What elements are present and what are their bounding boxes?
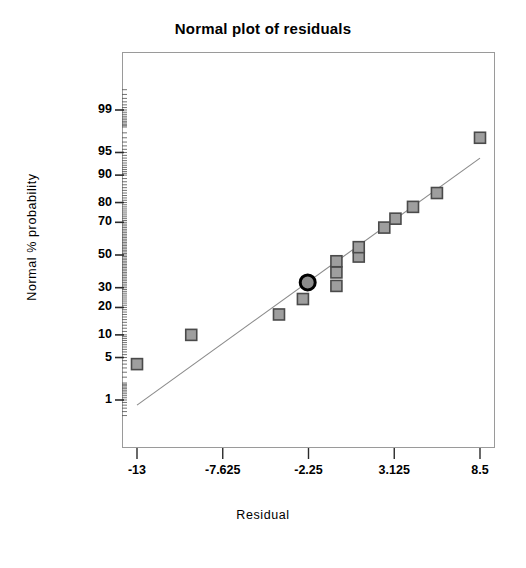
y-axis-tick-label: 80 [78,196,112,208]
y-axis-tick-label: 70 [78,215,112,227]
x-axis-tick-label: 8.5 [435,464,525,477]
y-axis-tick-label: 20 [78,300,112,312]
y-axis-title: Normal % probability [25,147,39,327]
y-axis-tick-label: 10 [78,328,112,340]
y-axis-tick-label: 90 [78,168,112,180]
y-axis-tick-label: 5 [78,351,112,363]
x-axis-tick-label: 3.125 [349,464,439,477]
x-axis-tick-label: -7.625 [178,464,268,477]
y-axis-tick-label: 50 [78,248,112,260]
x-axis-tick-label: -2.25 [264,464,354,477]
x-axis-major-ticks [137,448,480,459]
plot-frame [122,52,495,448]
y-axis-tick-label: 99 [78,103,112,115]
chart-title: Normal plot of residuals [0,20,526,37]
y-axis-tick-label: 30 [78,281,112,293]
y-axis-tick-label: 1 [78,393,112,405]
normal-probability-plot-figure: Normal plot of residuals 999590807050302… [0,0,526,568]
y-axis-tick-label: 95 [78,145,112,157]
x-axis-title: Residual [0,508,526,522]
x-axis-tick-label: -13 [92,464,182,477]
